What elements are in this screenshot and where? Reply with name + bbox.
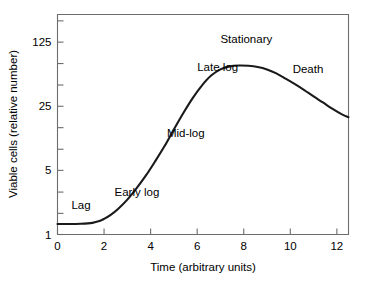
y-tick-label: 5 bbox=[45, 164, 51, 176]
y-tick-label: 125 bbox=[32, 36, 51, 48]
x-tick-label: 6 bbox=[194, 240, 200, 252]
y-tick-label: 1 bbox=[45, 229, 51, 241]
growth-curve-chart: 1525125 024681012 LagEarly logMid-logLat… bbox=[0, 0, 367, 283]
x-axis-title: Time (arbitrary units) bbox=[150, 261, 256, 273]
phase-label-stationary: Stationary bbox=[220, 33, 272, 45]
phase-label-lag: Lag bbox=[71, 199, 90, 211]
phase-label-death: Death bbox=[293, 63, 324, 75]
x-tick-label: 0 bbox=[54, 240, 60, 252]
x-tick-label: 12 bbox=[330, 240, 343, 252]
phase-label-late-log: Late log bbox=[197, 61, 238, 73]
x-tick-label: 10 bbox=[284, 240, 297, 252]
x-tick-label: 8 bbox=[241, 240, 247, 252]
x-tick-label: 4 bbox=[147, 240, 154, 252]
y-tick-label: 25 bbox=[39, 100, 52, 112]
y-axis-title: Viable cells (relative number) bbox=[7, 50, 19, 198]
phase-label-early-log: Early log bbox=[115, 186, 160, 198]
chart-canvas: 1525125 024681012 LagEarly logMid-logLat… bbox=[0, 0, 367, 283]
phase-label-mid-log: Mid-log bbox=[167, 127, 205, 139]
x-tick-label: 2 bbox=[101, 240, 107, 252]
